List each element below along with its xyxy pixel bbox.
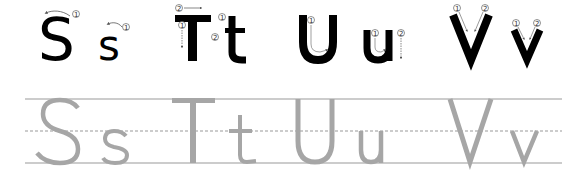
tracing-row [25, 98, 562, 163]
letter-s-lower: s 1 [98, 21, 130, 70]
svg-text:2: 2 [535, 20, 539, 28]
svg-text:1: 1 [180, 22, 184, 30]
svg-text:2: 2 [399, 30, 403, 38]
trace-s-lower [103, 131, 127, 163]
svg-text:2: 2 [483, 5, 487, 13]
letter-diagram: S 1 s 1 2 1 1 2 [0, 0, 586, 177]
svg-text:1: 1 [124, 24, 128, 32]
trace-v-lower [512, 131, 537, 162]
svg-text:1: 1 [309, 17, 313, 25]
trace-t-lower [229, 115, 256, 162]
svg-text:1: 1 [514, 20, 518, 28]
svg-text:2: 2 [177, 5, 181, 13]
letter-T-upper: 2 1 [175, 5, 211, 62]
svg-text:s: s [98, 21, 120, 70]
letter-S-upper: S 1 [38, 6, 80, 74]
letter-u-lower: 1 2 [367, 30, 405, 62]
letter-V-upper: 1 2 [453, 5, 489, 61]
svg-text:1: 1 [455, 5, 459, 13]
letter-t-lower: 1 2 [212, 14, 247, 61]
trace-T-upper [172, 98, 215, 163]
svg-text:1: 1 [74, 11, 78, 19]
svg-text:1: 1 [373, 30, 377, 38]
trace-u-lower [361, 131, 381, 163]
svg-text:2: 2 [213, 34, 217, 42]
svg-text:1: 1 [220, 14, 224, 22]
letter-U-upper: 1 [303, 15, 333, 60]
svg-text:S: S [38, 6, 75, 74]
stroke-order-row: S 1 s 1 2 1 1 2 [38, 5, 541, 75]
letter-v-lower: 1 2 [513, 20, 541, 61]
